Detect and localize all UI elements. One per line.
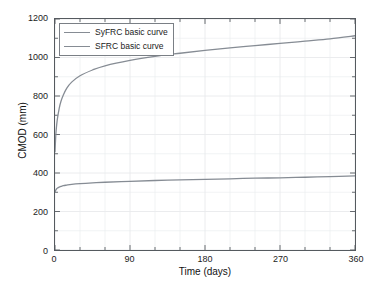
legend: SyFRC basic curve SFRC basic curve bbox=[59, 23, 174, 56]
x-tick-label: 270 bbox=[261, 255, 301, 264]
y-tick-label: 1000 bbox=[8, 53, 48, 62]
x-tick-label: 180 bbox=[185, 255, 225, 264]
y-tick-label: 200 bbox=[8, 208, 48, 217]
legend-entry: SyFRC basic curve bbox=[64, 27, 168, 38]
legend-line-swatch bbox=[64, 46, 90, 47]
legend-label: SyFRC basic curve bbox=[95, 28, 168, 37]
y-tick-label: 600 bbox=[8, 131, 48, 140]
legend-line-swatch bbox=[64, 32, 90, 33]
x-axis-title: Time (days) bbox=[54, 266, 356, 277]
x-tick-label: 360 bbox=[336, 255, 373, 264]
x-tick-label: 90 bbox=[110, 255, 150, 264]
y-tick-label: 800 bbox=[8, 92, 48, 101]
chart-figure: 1200 1000 800 600 400 200 0 0 90 180 270… bbox=[0, 0, 373, 294]
legend-entry: SFRC basic curve bbox=[64, 41, 168, 52]
y-axis-title: CMOD (mm) bbox=[17, 76, 28, 186]
y-tick-label: 400 bbox=[8, 169, 48, 178]
legend-label: SFRC basic curve bbox=[95, 42, 164, 51]
x-tick-label: 0 bbox=[34, 255, 74, 264]
plot-area: SyFRC basic curve SFRC basic curve bbox=[54, 18, 356, 251]
y-tick-label: 1200 bbox=[8, 14, 48, 23]
